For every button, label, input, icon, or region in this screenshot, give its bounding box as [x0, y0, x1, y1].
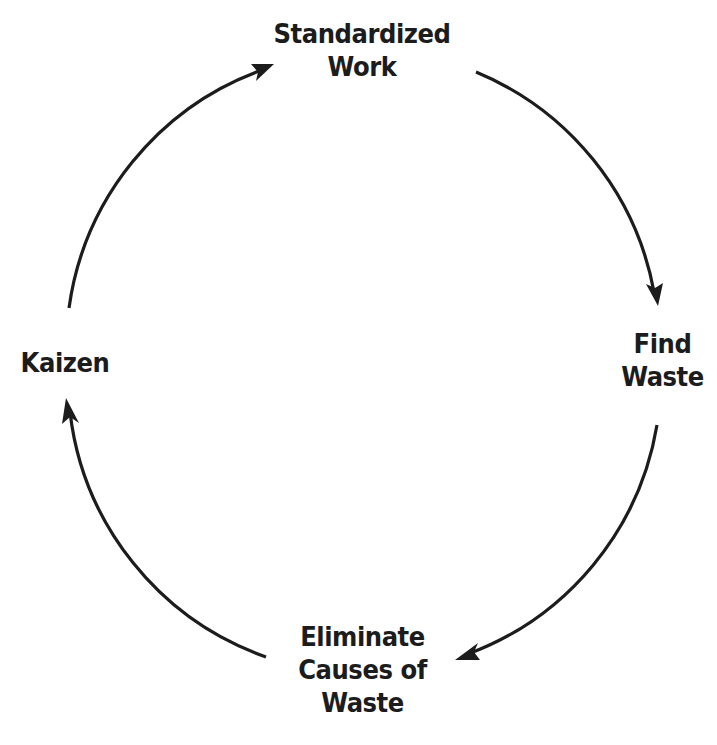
arrow-standardized-to-find-waste: [476, 72, 663, 306]
node-label-line: Work: [272, 50, 452, 83]
node-label-line: Find: [615, 327, 710, 360]
node-eliminate-causes: Eliminate Causes of Waste: [288, 620, 437, 719]
node-find-waste: Find Waste: [615, 327, 710, 393]
node-kaizen: Kaizen: [16, 346, 115, 379]
node-label-line: Causes of: [288, 653, 437, 686]
arrow-kaizen-to-standardized: [69, 64, 274, 308]
node-label-line: Waste: [615, 360, 710, 393]
arrow-find-waste-to-eliminate: [455, 425, 657, 660]
node-standardized-work: Standardized Work: [272, 17, 452, 83]
node-label-line: Waste: [288, 686, 437, 719]
arrow-eliminate-to-kaizen: [62, 398, 266, 657]
node-label-line: Kaizen: [16, 346, 115, 379]
node-label-line: Standardized: [272, 17, 452, 50]
node-label-line: Eliminate: [288, 620, 437, 653]
